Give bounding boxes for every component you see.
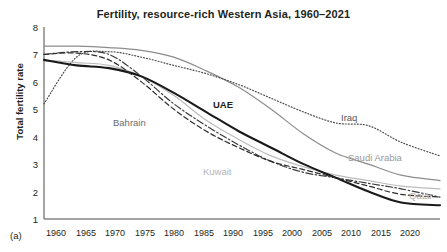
series-line-uae bbox=[44, 60, 440, 205]
series-line-bahrain bbox=[44, 51, 440, 197]
series-label-saudi-arabia: Saudi Arabia bbox=[348, 152, 402, 163]
series-line-kuwait bbox=[44, 60, 440, 189]
series-label-iraq: Iraq bbox=[341, 112, 357, 123]
axes bbox=[44, 27, 440, 219]
series-label-bahrain: Bahrain bbox=[113, 117, 146, 128]
fertility-line-chart: Fertility, resource-rich Western Asia, 1… bbox=[0, 0, 447, 252]
series-label-uae: UAE bbox=[213, 99, 233, 110]
series-lines bbox=[44, 46, 440, 205]
series-line-qatar bbox=[44, 53, 440, 197]
series-label-kuwait: Kuwait bbox=[203, 166, 232, 177]
series-label-qatar: Qatar bbox=[409, 190, 433, 201]
plot-area bbox=[0, 0, 447, 252]
